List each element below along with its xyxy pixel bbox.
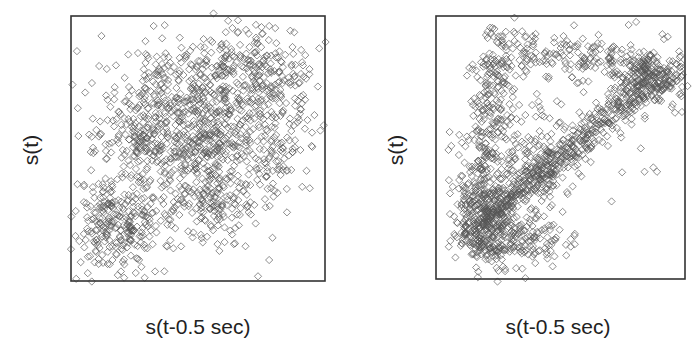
data-points xyxy=(445,14,691,285)
y-axis-label-right: s(t) xyxy=(384,135,408,165)
scatter-plot-right xyxy=(0,0,692,363)
scatter-panel-right: s(t) s(t-0.5 sec) xyxy=(0,0,692,363)
x-axis-label-right: s(t-0.5 sec) xyxy=(505,315,610,339)
